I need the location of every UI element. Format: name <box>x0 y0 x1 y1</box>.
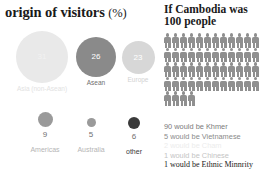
bubble-circle: 26 <box>76 37 116 77</box>
person-icon <box>164 62 172 77</box>
bubble-value: 6 <box>110 133 158 141</box>
person-icon <box>212 77 220 92</box>
legend-item: 5 would be Vietnamese <box>164 132 259 142</box>
person-icon <box>188 91 196 106</box>
person-icon <box>236 48 244 63</box>
panel-title-line-1: If Cambodia was <box>164 3 259 15</box>
person-icon <box>188 33 196 48</box>
bubble-circle <box>38 112 53 127</box>
person-icon <box>188 77 196 92</box>
person-icon <box>164 91 172 106</box>
bubble-other: 6 other <box>110 117 158 155</box>
bubble-asean: 26 Asean <box>70 37 122 87</box>
person-icon <box>236 62 244 77</box>
person-icon <box>220 33 228 48</box>
person-icon <box>252 77 259 92</box>
person-icon <box>172 62 180 77</box>
panel-title: If Cambodia was 100 people <box>164 3 259 27</box>
bubble-chart-large-row: 31 Asia (non-Asean) 26 Asean 23 Europe <box>0 31 160 93</box>
person-icon <box>244 48 252 63</box>
person-icon <box>220 48 228 63</box>
page-title: origin of visitors (%) <box>5 4 160 21</box>
person-icon <box>228 48 236 63</box>
bubble-label: Australia <box>66 146 116 153</box>
legend-item: 2 would be Cham <box>164 141 259 151</box>
bubble-value: 26 <box>92 53 101 61</box>
bubble-asia-non-asean: 31 Asia (non-Asean) <box>6 31 78 93</box>
person-icon <box>228 62 236 77</box>
bubble-value: 5 <box>66 131 116 139</box>
pictogram-grid <box>164 33 259 106</box>
person-icon <box>188 62 196 77</box>
person-icon <box>172 91 180 106</box>
infographic-page: origin of visitors (%) 31 Asia (non-Asea… <box>0 0 259 173</box>
person-icon <box>220 62 228 77</box>
person-icon <box>244 33 252 48</box>
bubble-circle <box>87 118 96 127</box>
person-icon <box>244 77 252 92</box>
bubble-value: 23 <box>134 54 143 62</box>
person-icon <box>252 48 259 63</box>
person-icon <box>252 62 259 77</box>
origin-of-visitors-panel: origin of visitors (%) 31 Asia (non-Asea… <box>0 0 160 173</box>
person-icon <box>196 77 204 92</box>
person-icon <box>196 62 204 77</box>
person-icon <box>236 33 244 48</box>
person-icon <box>204 77 212 92</box>
person-icon <box>220 77 228 92</box>
bubble-chart-small-row: 9 Americas 5 Australia 6 other <box>0 112 160 170</box>
person-icon <box>164 77 172 92</box>
person-icon <box>180 91 188 106</box>
bubble-label: Asia (non-Asean) <box>6 86 78 93</box>
legend-item: 1 would be Ethnic Minnrity <box>164 160 259 170</box>
legend-item: 90 would be Khmer <box>164 122 259 132</box>
person-icon <box>212 62 220 77</box>
page-title-unit: (%) <box>108 6 126 20</box>
person-icon <box>180 62 188 77</box>
person-icon <box>164 48 172 63</box>
person-icon <box>204 33 212 48</box>
person-icon <box>228 33 236 48</box>
bubble-circle <box>128 117 140 129</box>
person-icon <box>196 48 204 63</box>
bubble-europe: 23 Europe <box>116 41 160 84</box>
panel-title-line-2: 100 people <box>164 15 259 27</box>
person-icon <box>196 33 204 48</box>
person-icon <box>172 33 180 48</box>
person-icon <box>204 62 212 77</box>
bubble-label: Europe <box>116 77 160 84</box>
person-icon <box>172 48 180 63</box>
bubble-label: other <box>110 148 158 155</box>
bubble-circle: 31 <box>16 31 68 83</box>
person-icon <box>244 62 252 77</box>
bubble-value: 31 <box>38 53 47 61</box>
person-icon <box>204 48 212 63</box>
person-icon <box>252 33 259 48</box>
pictogram-legend: 90 would be Khmer5 would be Vietnamese2 … <box>164 122 259 170</box>
person-icon <box>164 33 172 48</box>
person-icon <box>212 33 220 48</box>
person-icon <box>212 48 220 63</box>
person-icon <box>228 77 236 92</box>
page-title-text: origin of visitors <box>5 4 105 20</box>
bubble-circle: 23 <box>122 41 155 74</box>
bubble-label: Asean <box>70 80 122 87</box>
bubble-australia: 5 Australia <box>66 118 116 153</box>
legend-item: 1 would be Chinese <box>164 151 259 161</box>
person-icon <box>180 33 188 48</box>
person-icon <box>180 48 188 63</box>
person-icon <box>236 77 244 92</box>
person-icon <box>172 77 180 92</box>
person-icon <box>188 48 196 63</box>
cambodia-100-people-panel: If Cambodia was 100 people 90 would be K… <box>160 0 259 173</box>
person-icon <box>180 77 188 92</box>
